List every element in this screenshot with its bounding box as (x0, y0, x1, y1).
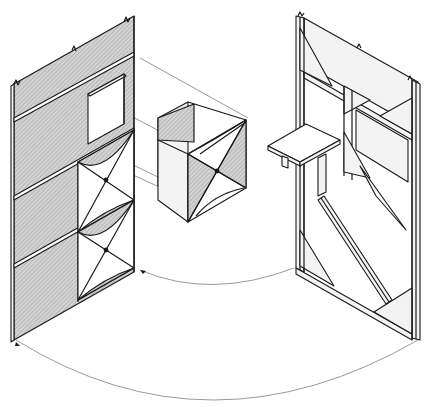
box-brace-node (215, 169, 220, 174)
brace-node (104, 178, 109, 183)
shelf-leg-left (282, 156, 288, 168)
brace-node (104, 248, 109, 253)
left-panel-edge (11, 84, 14, 342)
shelf-leg-right (318, 154, 326, 196)
arc-outer (16, 340, 418, 400)
shelf-top (268, 124, 340, 162)
right-frame (296, 12, 420, 340)
arc-inner (140, 268, 294, 285)
construction-diagram (0, 0, 431, 407)
arrowhead-outer (15, 342, 20, 346)
center-box (158, 102, 246, 222)
left-panel (11, 16, 134, 342)
box-left-face (158, 140, 188, 222)
diagram-canvas (0, 0, 431, 407)
